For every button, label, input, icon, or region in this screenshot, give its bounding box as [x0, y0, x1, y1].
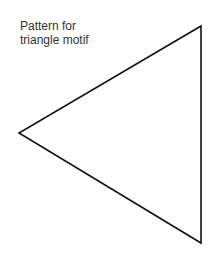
triangle-motif-figure — [0, 0, 212, 256]
triangle-shape — [19, 26, 201, 243]
